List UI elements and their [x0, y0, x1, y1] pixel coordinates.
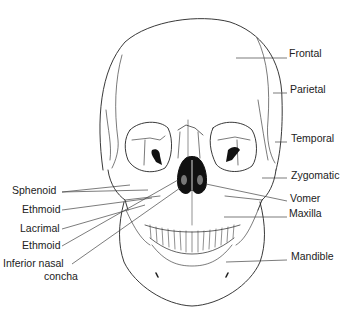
label-concha: concha [44, 270, 78, 282]
label-maxilla: Maxilla [289, 207, 322, 219]
label-frontal: Frontal [289, 47, 322, 59]
label-mandible: Mandible [291, 250, 334, 262]
left-orbit [125, 122, 171, 171]
label-temporal: Temporal [291, 132, 334, 144]
label-sphenoid: Sphenoid [12, 184, 56, 196]
label-lacrimal: Lacrimal [20, 222, 60, 234]
label-zygomatic: Zygomatic [291, 169, 339, 181]
label-ethmoid-upper: Ethmoid [22, 203, 61, 215]
cranium-outline [100, 19, 282, 170]
label-vomer: Vomer [290, 192, 320, 204]
upper-teeth [145, 225, 240, 232]
label-parietal: Parietal [290, 83, 326, 95]
left-orbital-fissure [151, 149, 162, 165]
label-inferior-nasal: Inferior nasal [3, 257, 64, 269]
right-orbit [210, 122, 256, 171]
label-ethmoid-lower: Ethmoid [22, 239, 61, 251]
